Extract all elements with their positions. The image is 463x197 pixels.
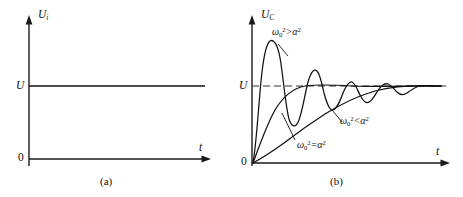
- panel-a-x-axis-arrowhead: [202, 156, 212, 163]
- panel-a-graphics: [26, 15, 211, 166]
- panel-a-level-label: U: [16, 80, 24, 92]
- panel-a-x-axis-label: t: [199, 142, 202, 154]
- panel-a-y-axis-arrowhead: [26, 15, 33, 25]
- figure-container: Ui U 0 t (a) UC U 0 t (b) ω02>α2 ω02<α2 …: [0, 0, 463, 197]
- panel-b-origin-label: 0: [241, 156, 247, 168]
- panel-b-x-axis-label: t: [436, 146, 439, 158]
- panel-a-origin-label: 0: [18, 152, 24, 164]
- panel-a-caption: (a): [100, 175, 112, 187]
- figure-svg: [0, 0, 463, 197]
- curve-label-underdamped: ω02>α2: [272, 27, 301, 39]
- panel-b-caption: (b): [330, 175, 343, 187]
- panel-b-y-axis-arrowhead: [249, 15, 256, 25]
- panel-b-x-axis-arrowhead: [441, 160, 451, 167]
- curve-label-critically-damped: ω02=α2: [297, 140, 326, 152]
- curve-label-overdamped: ω02<α2: [340, 116, 369, 128]
- panel-a-y-axis-label: Ui: [38, 9, 48, 21]
- panel-b-y-axis-label: UC: [261, 9, 274, 21]
- panel-b-level-label: U: [239, 80, 247, 92]
